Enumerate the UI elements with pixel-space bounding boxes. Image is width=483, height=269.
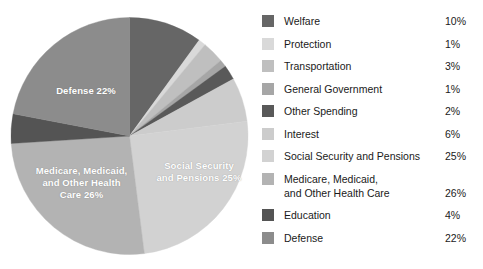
legend-label: Protection — [274, 37, 445, 51]
legend-label: Social Security and Pensions — [274, 149, 445, 163]
legend-label: Defense — [274, 231, 445, 245]
legend-value: 6% — [445, 127, 477, 141]
legend-row[interactable]: Welfare10% — [262, 14, 477, 28]
legend-label: Education — [274, 208, 445, 222]
legend-value: 2% — [445, 104, 477, 118]
legend-row[interactable]: General Government1% — [262, 82, 477, 96]
legend-value: 1% — [445, 82, 477, 96]
legend-swatch-icon — [262, 128, 274, 140]
legend-swatch-icon — [262, 232, 274, 244]
legend-row[interactable]: Education4% — [262, 208, 477, 222]
legend-swatch-icon — [262, 38, 274, 50]
legend-value: 4% — [445, 208, 477, 222]
legend-swatch-icon — [262, 150, 274, 162]
chart-legend: Welfare10%Protection1%Transportation3%Ge… — [262, 14, 477, 253]
legend-value: 25% — [445, 149, 477, 163]
pie-chart-svg — [0, 8, 255, 266]
pie-chart-area: Defense 22% Medicare, Medicaid, and Othe… — [0, 8, 255, 266]
legend-label: Other Spending — [274, 104, 445, 118]
legend-swatch-icon — [262, 15, 274, 27]
legend-row[interactable]: Interest6% — [262, 127, 477, 141]
legend-swatch-icon — [262, 173, 274, 185]
legend-label: Welfare — [274, 14, 445, 28]
legend-swatch-icon — [262, 105, 274, 117]
legend-swatch-icon — [262, 60, 274, 72]
legend-label: Transportation — [274, 59, 445, 73]
legend-row[interactable]: Protection1% — [262, 37, 477, 51]
legend-row[interactable]: Transportation3% — [262, 59, 477, 73]
legend-label: General Government — [274, 82, 445, 96]
legend-label: Medicare, Medicaid, and Other Health Car… — [274, 172, 445, 200]
pie-slice[interactable] — [11, 136, 144, 255]
legend-row[interactable]: Defense22% — [262, 231, 477, 245]
legend-value: 22% — [445, 231, 477, 245]
legend-value: 3% — [445, 59, 477, 73]
pie-slice[interactable] — [130, 121, 249, 253]
legend-value: 1% — [445, 37, 477, 51]
legend-swatch-icon — [262, 209, 274, 221]
legend-row[interactable]: Other Spending2% — [262, 104, 477, 118]
legend-swatch-icon — [262, 83, 274, 95]
legend-value: 26% — [445, 186, 477, 200]
pie-chart-figure: Defense 22% Medicare, Medicaid, and Othe… — [0, 0, 483, 269]
legend-value: 10% — [445, 14, 477, 28]
legend-label: Interest — [274, 127, 445, 141]
legend-row[interactable]: Medicare, Medicaid, and Other Health Car… — [262, 172, 477, 200]
legend-row[interactable]: Social Security and Pensions25% — [262, 149, 477, 163]
